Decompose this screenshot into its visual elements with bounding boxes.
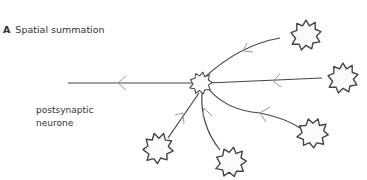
axon bbox=[68, 76, 192, 90]
presynaptic-neuron-top bbox=[291, 20, 321, 50]
presynaptic-neuron-bottom-left bbox=[140, 130, 177, 167]
presynaptic-neuron-bottom-right bbox=[294, 114, 332, 152]
presynaptic-neuron-right bbox=[328, 63, 358, 93]
presynaptic-connections bbox=[168, 38, 322, 150]
summation-diagram bbox=[0, 0, 367, 180]
postsynaptic-neuron-body bbox=[188, 70, 214, 96]
presynaptic-neuron-bottom-middle bbox=[214, 145, 249, 180]
